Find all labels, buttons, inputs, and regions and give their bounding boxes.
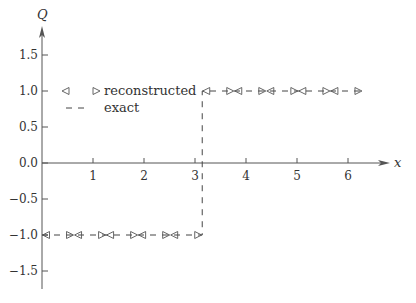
- chart: Qx1234561.51.00.50.0−0.5−1.0−1.5 reconst…: [0, 0, 416, 303]
- x-tick-label: 3: [191, 169, 199, 183]
- legend-label-exact: exact: [104, 100, 140, 115]
- x-tick-label: 2: [140, 169, 148, 183]
- y-tick-label: 1.0: [19, 84, 38, 98]
- legend-right-triangle-icon: [93, 88, 100, 95]
- x-tick-label: 1: [89, 169, 97, 183]
- axes: Qx1234561.51.00.50.0−0.5−1.0−1.5: [9, 7, 402, 289]
- y-tick-label: 0.0: [19, 156, 38, 170]
- legend-label-reconstructed: reconstructed: [104, 83, 196, 98]
- y-tick-label: 1.5: [19, 48, 38, 62]
- x-tick-label: 6: [344, 169, 352, 183]
- x-axis-label: x: [394, 155, 402, 170]
- y-tick-label: 0.5: [19, 120, 38, 134]
- legend-left-triangle-icon: [62, 88, 69, 95]
- x-tick-label: 5: [293, 169, 301, 183]
- legend: reconstructed exact: [62, 83, 196, 115]
- x-tick-label: 4: [242, 169, 250, 183]
- y-tick-label: −0.5: [9, 192, 38, 206]
- y-tick-label: −1.5: [9, 264, 38, 278]
- y-tick-label: −1.0: [9, 228, 38, 242]
- y-axis-label: Q: [37, 7, 48, 22]
